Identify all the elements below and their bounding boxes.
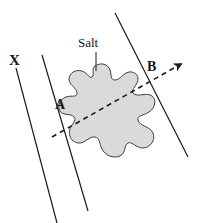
label-a: A (55, 98, 65, 112)
salt-body-shape (59, 64, 155, 157)
label-salt: Salt (78, 36, 98, 49)
salt-dome-diagram: X A B Salt (0, 0, 199, 223)
solid-line-x (16, 68, 57, 223)
label-b: B (147, 60, 156, 74)
label-x: X (9, 53, 20, 68)
salt-body (59, 64, 155, 157)
diagram-canvas (0, 0, 199, 223)
